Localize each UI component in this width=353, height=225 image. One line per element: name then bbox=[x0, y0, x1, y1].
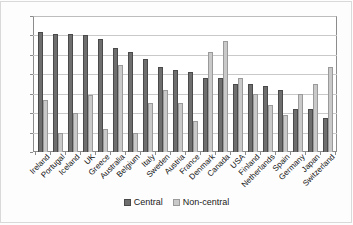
legend-swatch-central-icon bbox=[124, 199, 131, 206]
bar-noncentral[interactable] bbox=[238, 78, 243, 152]
bar-group bbox=[320, 16, 335, 152]
bar-group bbox=[155, 16, 170, 152]
bar-noncentral[interactable] bbox=[298, 94, 303, 152]
legend-item[interactable]: Non-central bbox=[173, 198, 230, 207]
bar-noncentral[interactable] bbox=[118, 65, 123, 152]
bar-noncentral[interactable] bbox=[58, 133, 63, 152]
bar-group bbox=[185, 16, 200, 152]
chart-figure: 706050403020100 IrelandPortugalIcelandUK… bbox=[0, 0, 353, 225]
chart-legend: CentralNon-central bbox=[0, 198, 353, 207]
bar-noncentral[interactable] bbox=[268, 105, 273, 152]
bar-group bbox=[215, 16, 230, 152]
bar-group bbox=[140, 16, 155, 152]
bar-series-container bbox=[33, 16, 337, 152]
bar-group bbox=[65, 16, 80, 152]
bar-noncentral[interactable] bbox=[253, 94, 258, 152]
bar-noncentral[interactable] bbox=[193, 121, 198, 152]
legend-item[interactable]: Central bbox=[124, 198, 163, 207]
bar-noncentral[interactable] bbox=[103, 129, 108, 152]
bar-group bbox=[275, 16, 290, 152]
bar-group bbox=[305, 16, 320, 152]
bar-group bbox=[200, 16, 215, 152]
bar-group bbox=[170, 16, 185, 152]
plot-wrapper: 706050403020100 bbox=[33, 16, 337, 152]
bar-noncentral[interactable] bbox=[88, 95, 93, 152]
legend-swatch-noncentral-icon bbox=[173, 199, 180, 206]
bar-group bbox=[245, 16, 260, 152]
bar-group bbox=[50, 16, 65, 152]
bar-noncentral[interactable] bbox=[133, 133, 138, 152]
bar-group bbox=[95, 16, 110, 152]
bar-group bbox=[110, 16, 125, 152]
bar-group bbox=[35, 16, 50, 152]
bar-noncentral[interactable] bbox=[163, 90, 168, 152]
legend-item-label: Non-central bbox=[183, 198, 230, 207]
bar-noncentral[interactable] bbox=[178, 103, 183, 152]
bar-group bbox=[80, 16, 95, 152]
bar-noncentral[interactable] bbox=[73, 113, 78, 152]
bar-noncentral[interactable] bbox=[148, 103, 153, 152]
bar-group bbox=[230, 16, 245, 152]
bar-noncentral[interactable] bbox=[43, 100, 48, 152]
bar-noncentral[interactable] bbox=[328, 67, 333, 152]
bar-group bbox=[260, 16, 275, 152]
bar-noncentral[interactable] bbox=[283, 115, 288, 152]
bar-noncentral[interactable] bbox=[208, 52, 213, 152]
bar-noncentral[interactable] bbox=[313, 84, 318, 152]
bar-group bbox=[290, 16, 305, 152]
legend-item-label: Central bbox=[134, 198, 163, 207]
bar-group bbox=[125, 16, 140, 152]
bar-noncentral[interactable] bbox=[223, 41, 228, 152]
